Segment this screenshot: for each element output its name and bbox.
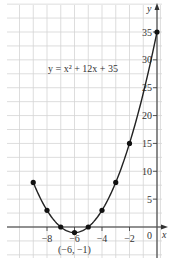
axes bbox=[7, 3, 168, 258]
parabola-chart: −8−6−4−25101520253035 y = x² + 12x + 35 … bbox=[0, 0, 169, 258]
data-point bbox=[127, 141, 132, 146]
y-tick-label: 35 bbox=[142, 27, 152, 38]
data-points bbox=[31, 29, 160, 235]
origin-label: 0 bbox=[147, 230, 152, 241]
y-tick-label: 15 bbox=[142, 138, 152, 149]
y-axis-label: y bbox=[146, 3, 152, 14]
data-point bbox=[86, 224, 91, 229]
x-tick-label: −4 bbox=[97, 233, 108, 244]
equation-label: y = x² + 12x + 35 bbox=[48, 63, 118, 74]
data-point bbox=[31, 180, 36, 185]
data-point bbox=[113, 180, 118, 185]
data-point bbox=[44, 208, 49, 213]
x-tick-label: −8 bbox=[42, 233, 53, 244]
x-tick-label: −2 bbox=[124, 233, 135, 244]
grid bbox=[7, 4, 162, 258]
ticks: −8−6−4−25101520253035 bbox=[42, 27, 157, 245]
y-tick-label: 10 bbox=[142, 166, 152, 177]
data-point bbox=[99, 208, 104, 213]
vertex-annotation: (−6, −1) bbox=[58, 244, 91, 256]
y-tick-label: 20 bbox=[142, 110, 152, 121]
x-axis-label: x bbox=[161, 229, 167, 240]
data-point bbox=[58, 224, 63, 229]
y-tick-label: 5 bbox=[147, 194, 152, 205]
data-point bbox=[72, 230, 77, 235]
data-point bbox=[154, 29, 159, 34]
